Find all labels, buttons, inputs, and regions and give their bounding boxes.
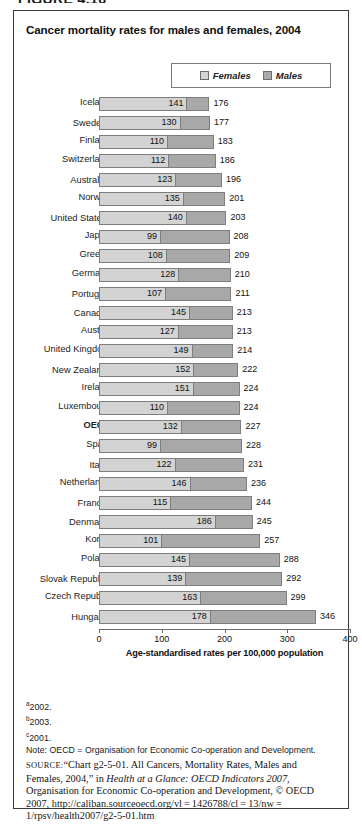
source-publication-title: Health at a Glance: OECD Indicators 2007 [106,773,287,784]
bar-value-males: 245 [257,516,272,526]
bar-value-males: 209 [234,250,249,260]
bar-value-females: 139 [99,573,182,583]
bar-row: Franceb115244 [14,494,350,513]
bar-row: Swedena130177 [14,114,350,133]
bar-value-females: 115 [99,497,167,507]
footnote-text-a: 2002. [30,702,52,712]
bar-row: Poland145288 [14,551,350,570]
bar-value-females: 110 [99,136,164,146]
bar-row: Denmarkc186245 [14,513,350,532]
bar-value-females: 101 [99,535,158,545]
bar-row-label: Italya [0,458,110,470]
bar-row: OECD132227 [14,418,350,437]
bar-value-males: 201 [229,193,244,203]
bar-value-males: 299 [291,592,306,602]
bar-row: Canadaa145213 [14,304,350,323]
legend-item-males: Males [263,70,302,81]
bar-rows: Iceland141176Swedena130177Finland110183S… [14,95,350,627]
bar-row-label: Germany [0,268,110,278]
bar-group: 141176 [99,97,350,111]
bar-group: 163299 [99,591,350,605]
bar-value-females: 132 [99,421,178,431]
bar-value-males: 208 [234,231,249,241]
bar-value-males: 196 [226,174,241,184]
bar-value-females: 108 [99,250,163,260]
footnote-text-c: 2001. [29,733,51,743]
bar-row: New Zealandc152222 [14,361,350,380]
footnote-a: a2002. [26,698,336,713]
bar-row: Slovak Republica139292 [14,570,350,589]
x-axis: 0100200300400 Age-standardised rates per… [99,629,350,655]
bar-value-males: 224 [244,402,259,412]
bar-value-males: 257 [264,535,279,545]
bar-row: Italya122231 [14,456,350,475]
bar-value-females: 145 [99,554,186,564]
bar-row: Luxembourg110224 [14,399,350,418]
x-axis-tick-label: 0 [96,634,101,644]
bar-row: Spain99228 [14,437,350,456]
bar-value-females: 123 [99,174,172,184]
bar-row: Hungaryb178346 [14,608,350,627]
bar-group: 135201 [99,192,350,206]
figure-box: Cancer mortality rates for males and fem… [13,10,349,809]
bar-group: 112186 [99,154,350,168]
bar-row-label: United Kingdom [0,344,110,354]
bar-row: Czech Republic163299 [14,589,350,608]
bar-value-males: 203 [230,212,245,222]
legend-item-females: Females [200,70,251,81]
bar-group: 122231 [99,458,350,472]
bar-row-label: Ireland [0,382,110,392]
bar-row-label: Portugalb [0,287,110,299]
bar-row: Netherlands146236 [14,475,350,494]
bar-group: 139292 [99,572,350,586]
bar-group: 149214 [99,344,350,358]
bar-row: United Kingdom149214 [14,342,350,361]
bar-group: 128210 [99,268,350,282]
bar-row: United Statesa140203 [14,209,350,228]
bar-row-label: Finland [0,135,110,145]
bar-value-males: 236 [251,478,266,488]
bar-value-males: 210 [235,269,250,279]
country-name: Slovak Republic [40,574,107,584]
bar-group: 146236 [99,477,350,491]
bar-group: 140203 [99,211,350,225]
bar-value-females: 163 [99,592,197,602]
legend-label-females: Females [213,70,251,81]
source-citation: source:“Chart g2-5-01. All Cancers, Mort… [26,759,330,823]
bar-group: 145288 [99,553,350,567]
bar-value-females: 141 [99,98,183,108]
bar-row: Germany128210 [14,266,350,285]
bar-group: 127213 [99,325,350,339]
source-kicker: source: [26,761,63,770]
bar-value-males: 288 [284,554,299,564]
footnotes: a2002. b2003. c2001. Note: OECD = Organi… [26,698,336,755]
bar-value-males: 231 [248,459,263,469]
x-axis-tick-label: 100 [154,634,169,644]
square-swatch-icon [263,71,272,80]
bar-group: 108209 [99,249,350,263]
bar-group: 152222 [99,363,350,377]
bar-value-females: 99 [99,231,157,241]
bar-row: Portugalb107211 [14,285,350,304]
bar-group: 151224 [99,382,350,396]
bar-group: 186245 [99,515,350,529]
bar-row: Australiab123196 [14,171,350,190]
bar-row: Iceland141176 [14,95,350,114]
bar-value-males: 213 [237,326,252,336]
chart-title: Cancer mortality rates for males and fem… [26,23,301,36]
bar-row: Japan99208 [14,228,350,247]
bar-row: Switzerland112186 [14,152,350,171]
bar-row-label: Denmarkc [0,515,110,527]
bar-row-label: Iceland [0,97,110,107]
bar-group: 178346 [99,610,350,624]
bar-value-males: 186 [220,155,235,165]
bar-row: Greece108209 [14,247,350,266]
footnote-text-b: 2003. [30,717,52,727]
bar-value-females: 146 [99,478,187,488]
bar-row-label: New Zealandc [0,363,110,375]
bar-group: 99208 [99,230,350,244]
bar-row: Austria127213 [14,323,350,342]
bar-row-label: Franceb [0,496,110,508]
bar-group: 101257 [99,534,350,548]
x-axis-tick-label: 300 [280,634,295,644]
